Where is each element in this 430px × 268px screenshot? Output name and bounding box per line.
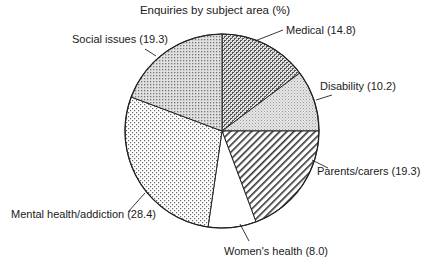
label-womens: Women's health (8.0) [224, 245, 328, 257]
label-mental: Mental health/addiction (28.4) [11, 208, 156, 220]
label-medical: Medical (14.8) [286, 24, 356, 36]
label-parents: Parents/carers (19.3) [317, 165, 420, 177]
leader-social [145, 49, 156, 56]
leader-medical [255, 30, 283, 41]
leader-disability [316, 95, 332, 100]
label-disability: Disability (10.2) [320, 80, 396, 92]
label-social: Social issues (19.3) [72, 33, 168, 45]
leader-womens [240, 224, 249, 241]
pie-chart [0, 0, 430, 268]
